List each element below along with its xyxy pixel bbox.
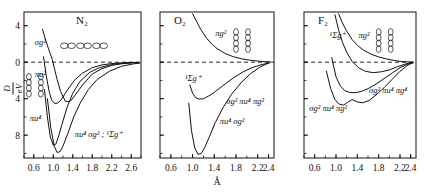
annotation-pi-g-2: πg² bbox=[358, 30, 370, 40]
orbital-diagram-pi bbox=[376, 29, 393, 53]
curve-sigma_g_1state bbox=[335, 15, 412, 73]
lobe-icon bbox=[60, 43, 68, 49]
x-tick-label: 0.6 bbox=[28, 163, 40, 173]
plot-area-o2: 0.61.01.41.82.22.4O₂πg²¹Σg⁺σg² πu⁴ πg²πu… bbox=[146, 0, 288, 192]
curve-pi_u4_sigma_g2 bbox=[47, 63, 140, 152]
annotation-sigma-g-state: ¹Σg⁺ bbox=[330, 30, 348, 40]
lobe-icon bbox=[76, 43, 84, 49]
lobe-icon bbox=[68, 43, 76, 49]
plot-area-n2: 0.61.01.41.82.22.64048N₂σg²πu²πu⁴πu⁴ σg²… bbox=[0, 0, 146, 192]
annotation-sigma-g-2-pi-u-4-pi-g-2: σg² πu⁴ πg² bbox=[309, 103, 347, 113]
panel-o2: 0.61.01.41.82.22.4O₂πg²¹Σg⁺σg² πu⁴ πg²πu… bbox=[146, 0, 288, 192]
y-tick-label: 4 bbox=[15, 21, 20, 31]
lobe-icon bbox=[84, 43, 92, 49]
x-tick-label: 1.0 bbox=[187, 163, 199, 173]
x-tick-label: 0.6 bbox=[165, 163, 177, 173]
x-tick-label: 1.8 bbox=[86, 163, 98, 173]
y-tick-label: 8 bbox=[15, 131, 20, 141]
x-tick-label: 1.0 bbox=[330, 163, 342, 173]
x-tick-label: 2.4 bbox=[405, 163, 417, 173]
x-tick-label: 1.8 bbox=[373, 163, 385, 173]
panel-title: N₂ bbox=[76, 14, 88, 26]
annotation-pi-u-2: πu² bbox=[35, 69, 47, 79]
panel-title: O₂ bbox=[174, 14, 186, 26]
annotation-sigma-g-2-pi-u-4-pi-g-2: σg² πu⁴ πg² bbox=[226, 96, 264, 106]
orbital-diagram-pi bbox=[234, 29, 251, 53]
annotation-pi-u-4: πu⁴ bbox=[30, 113, 42, 123]
panel-title: F₂ bbox=[318, 14, 328, 26]
annotation-sigma-g-state: ¹Σg⁺ bbox=[185, 73, 203, 83]
annotation-sigma-g-2: σg² bbox=[35, 37, 46, 47]
panel-n2: D eV 0.61.01.41.82.22.64048N₂σg²πu²πu⁴πu… bbox=[0, 0, 146, 192]
annotation-pi-u-4-sigma-g-2-state: πu⁴ σg² ; ¹Σg⁺ bbox=[75, 129, 125, 139]
y-tick-label: 0 bbox=[15, 58, 20, 68]
x-tick-label: 1.4 bbox=[208, 163, 220, 173]
x-tick-label: 2.4 bbox=[263, 163, 275, 173]
lobe-icon bbox=[93, 43, 101, 49]
y-tick-label: 4 bbox=[15, 94, 20, 104]
annotation-pi-g-2: πg² bbox=[215, 28, 227, 38]
curve-pi_g2 bbox=[193, 14, 272, 62]
x-tick-label: 1.0 bbox=[47, 163, 59, 173]
x-tick-label: 2.6 bbox=[125, 163, 137, 173]
x-tick-label: 1.8 bbox=[230, 163, 242, 173]
potential-energy-curves-figure: D eV 0.61.01.41.82.22.64048N₂σg²πu²πu⁴πu… bbox=[0, 0, 428, 192]
x-tick-label: 0.6 bbox=[309, 163, 321, 173]
annotation-pi-u-4-sigma-g-2: πu⁴ σg² bbox=[220, 116, 245, 126]
plot-area-f2: 0.61.01.41.82.22.4F₂¹Σg⁺πg²σg² πu⁴ πg⁴σg… bbox=[288, 0, 428, 192]
x-tick-label: 1.4 bbox=[351, 163, 363, 173]
panel-f2: 0.61.01.41.82.22.4F₂¹Σg⁺πg²σg² πu⁴ πg⁴σg… bbox=[288, 0, 428, 192]
x-tick-label: 2.2 bbox=[106, 163, 118, 173]
x-axis-unit-label: Å bbox=[146, 176, 288, 187]
annotation-sigma-g-2-pi-u-4-pi-g-4: σg² πu⁴ πg⁴ bbox=[369, 85, 407, 95]
lobe-icon bbox=[100, 43, 108, 49]
orbital-diagram-sigma bbox=[60, 43, 107, 49]
x-tick-label: 1.4 bbox=[67, 163, 79, 173]
